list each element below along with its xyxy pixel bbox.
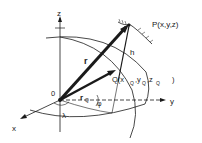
point-q-close: )	[172, 75, 175, 84]
vector-r-label: r	[84, 56, 88, 66]
point-q-comma-y: ,y	[135, 75, 141, 84]
longitude-label: λ	[62, 111, 66, 120]
x-axis-label: x	[12, 124, 16, 133]
vector-rq-subscript: Q	[85, 97, 89, 103]
point-q-comma-z: ,z	[147, 75, 153, 84]
y-axis-arrow	[160, 98, 166, 102]
x-axis-arrow	[20, 114, 27, 119]
point-q-label: Q(x	[112, 75, 124, 84]
height-h-label: h	[130, 48, 134, 57]
point-q-subscript-x: Q	[130, 80, 134, 86]
point-q-subscript-z: Q	[156, 80, 160, 86]
latitude-label: φ	[97, 100, 102, 108]
y-axis-label: y	[170, 97, 174, 106]
q-projection	[112, 82, 118, 113]
point-p-marker	[128, 24, 131, 27]
geodetic-coordinates-diagram: z y x r r Q h P(x,y,z) Q(x Q ,y Q ,z Q )…	[0, 0, 202, 143]
vector-rq	[60, 72, 112, 100]
origin-label: 0	[51, 89, 55, 98]
point-q-subscript-y: Q	[142, 80, 146, 86]
point-p-label: P(x,y,z)	[152, 20, 179, 29]
terrain-surface	[118, 22, 152, 44]
vector-r	[60, 27, 126, 100]
z-axis-label: z	[57, 9, 61, 18]
origin-marker	[58, 98, 62, 102]
vector-rq-label: r	[80, 93, 83, 102]
